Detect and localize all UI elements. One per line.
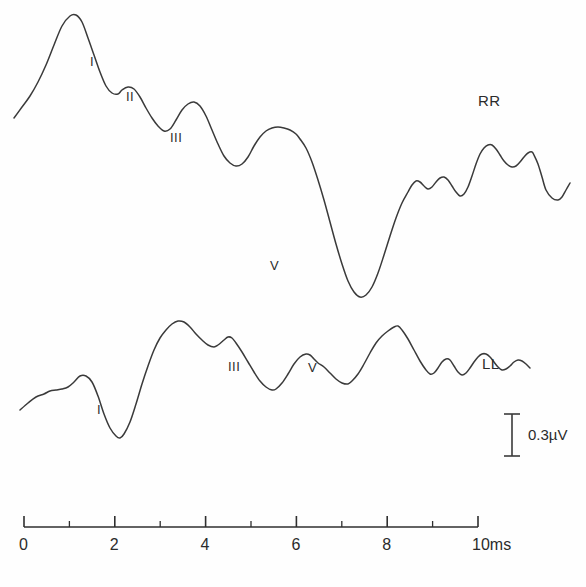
ll-peak-label-iii: III [228,359,240,374]
ll-trace-label: LL [482,355,500,372]
ll-trace-group [20,321,530,438]
ll-peak-label-i: I [97,402,101,417]
rr-peak-label-v: V [270,258,279,273]
waveform-plot [0,0,586,587]
axis-tick-label-4: 4 [201,536,210,554]
rr-peak-label-i: I [90,54,94,69]
axis-tick-label-10: 10ms [472,536,511,554]
axis-tick-label-0: 0 [19,536,28,554]
rr-waveform-path [14,14,570,297]
bera-waveform-figure: I II III V I III V RR LL 0.3µV 0246810ms [0,0,586,587]
time-axis [24,516,478,527]
rr-peak-label-iii: III [170,130,182,145]
axis-tick-label-2: 2 [110,536,119,554]
scale-bar-label: 0.3µV [528,426,568,443]
axis-tick-label-6: 6 [291,536,300,554]
axis-tick-label-8: 8 [382,536,391,554]
ll-waveform-path [20,321,530,438]
amplitude-scale-bar [504,414,520,456]
ll-peak-label-v: V [308,360,317,375]
rr-peak-label-ii: II [126,89,134,104]
rr-trace-label: RR [478,92,501,109]
rr-trace-group [14,14,570,297]
